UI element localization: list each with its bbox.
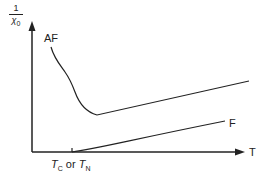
y-axis-arrow-icon <box>29 21 36 31</box>
af-curve-label: AF <box>44 33 58 44</box>
af-curve <box>51 47 249 115</box>
tc-symbol: T <box>51 158 58 170</box>
diagram-canvas <box>0 0 266 175</box>
tn-subscript: N <box>85 165 90 172</box>
x-axis-label: T <box>249 147 256 158</box>
f-curve <box>72 121 225 152</box>
or-text: or <box>63 158 79 170</box>
y-axis-label: 1 χ0 <box>9 4 23 27</box>
x-axis-arrow-icon <box>235 149 245 156</box>
chi-subscript: 0 <box>17 20 21 27</box>
transition-temperature-label: TC or TN <box>51 158 91 172</box>
f-curve-label: F <box>229 118 236 129</box>
y-axis-label-denominator: χ0 <box>9 16 23 27</box>
y-axis-label-numerator: 1 <box>9 4 23 13</box>
